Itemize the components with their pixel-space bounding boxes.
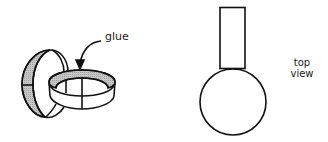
top-view-shape	[200, 8, 266, 136]
top-view-label-line1: top	[290, 57, 314, 68]
diagram-canvas	[0, 0, 328, 142]
back-ring	[22, 50, 68, 118]
front-ring	[49, 70, 115, 109]
glue-label: glue	[105, 31, 129, 42]
glue-arrow-icon	[76, 41, 101, 69]
top-view-rectangle	[220, 8, 245, 69]
top-view-label-line2: view	[290, 68, 314, 79]
top-view-circle	[200, 69, 266, 135]
top-view-label: top view	[290, 57, 314, 79]
